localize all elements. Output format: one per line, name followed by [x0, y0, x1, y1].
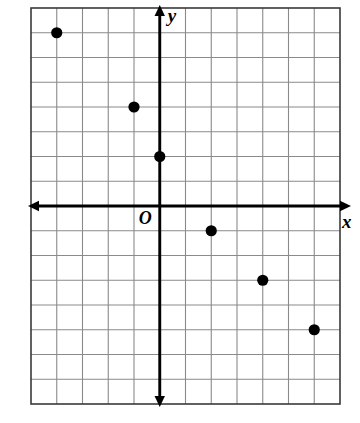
coordinate-plane-figure: y x O: [0, 0, 360, 423]
data-point: [128, 101, 139, 112]
data-point: [154, 151, 165, 162]
data-point: [257, 275, 268, 286]
x-axis-right-arrowhead: [340, 201, 351, 211]
data-point: [206, 225, 217, 236]
data-point: [309, 324, 320, 335]
y-axis-label: y: [168, 6, 176, 25]
coordinate-plane-svg: [0, 0, 360, 423]
data-point: [51, 27, 62, 38]
x-axis-label: x: [342, 212, 352, 231]
origin-label: O: [139, 209, 152, 227]
